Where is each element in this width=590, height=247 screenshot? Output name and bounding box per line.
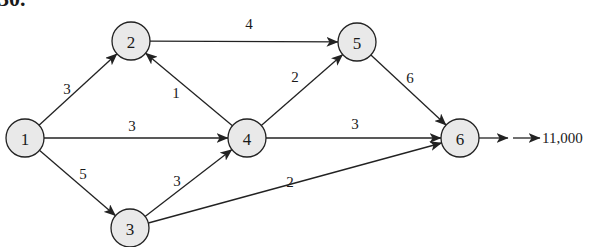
node-label: 3 — [126, 220, 135, 239]
edge-capacity-label: 4 — [245, 16, 253, 32]
edge-1-4: 3 — [44, 118, 228, 138]
edge-capacity-label: 3 — [351, 116, 359, 132]
arrow-icon — [39, 150, 115, 215]
node-label: 1 — [21, 130, 30, 149]
arrow-icon — [150, 41, 338, 42]
node-2: 2 — [112, 22, 150, 60]
arrow-icon — [39, 54, 117, 125]
node-label: 5 — [353, 34, 362, 53]
arrow-icon — [148, 143, 441, 223]
arrow-icon — [371, 55, 446, 125]
output-flow: 11,000 — [479, 130, 583, 146]
arrow-icon — [146, 53, 233, 126]
node-label: 6 — [456, 130, 465, 149]
node-label: 4 — [243, 130, 252, 149]
edge-capacity-label: 3 — [173, 173, 181, 189]
edge-capacity-label: 3 — [128, 118, 136, 134]
edge-2-5: 4 — [150, 16, 338, 42]
output-flow-label: 11,000 — [542, 130, 583, 146]
edge-capacity-label: 6 — [406, 70, 414, 86]
edge-5-6: 6 — [371, 55, 446, 125]
node-4: 4 — [228, 119, 266, 157]
arrow-icon — [261, 54, 342, 125]
edge-capacity-label: 2 — [286, 174, 294, 190]
edge-3-4: 3 — [145, 150, 232, 217]
node-label: 2 — [127, 33, 136, 52]
node-3: 3 — [111, 209, 149, 247]
edge-4-2: 1 — [146, 53, 233, 126]
edge-capacity-label: 2 — [291, 69, 299, 85]
node-1: 1 — [6, 119, 44, 157]
node-6: 6 — [441, 119, 479, 157]
edge-3-6: 2 — [148, 143, 441, 223]
edge-capacity-label: 3 — [63, 81, 71, 97]
nodes: 123456 — [6, 22, 479, 247]
edge-capacity-label: 5 — [79, 166, 87, 182]
arrow-icon — [145, 150, 232, 217]
edge-4-6: 3 — [266, 116, 441, 138]
edge-4-5: 2 — [261, 54, 342, 125]
edge-1-3: 5 — [39, 150, 115, 215]
problem-number: 30. — [0, 0, 26, 11]
edge-capacity-label: 1 — [172, 85, 180, 101]
network-diagram: 30. 3354123326 11,000 123456 — [0, 0, 590, 247]
node-5: 5 — [338, 23, 376, 61]
edge-1-2: 3 — [39, 54, 117, 125]
